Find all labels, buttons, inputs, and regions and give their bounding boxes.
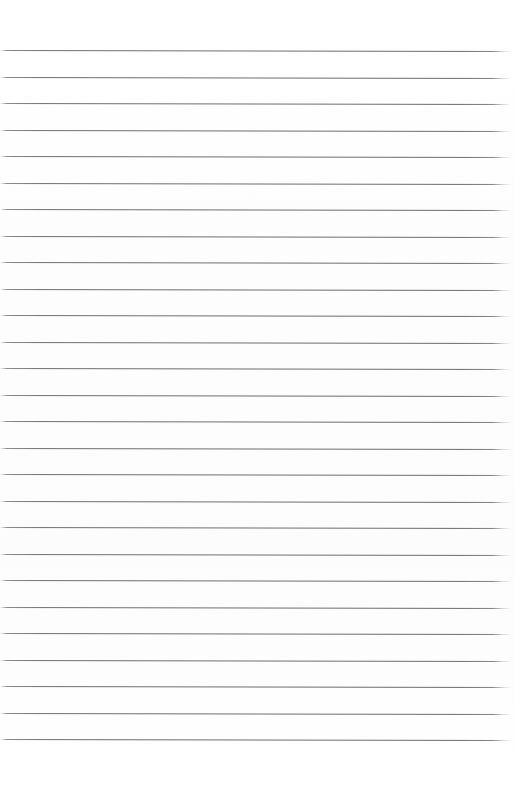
ruled-line	[0, 236, 515, 238]
ruled-line	[0, 421, 515, 423]
ruled-line	[0, 209, 515, 211]
ruled-line	[0, 130, 515, 132]
ruled-line	[0, 289, 515, 291]
scanned-page	[0, 0, 515, 801]
ruled-line	[0, 474, 515, 476]
ruled-lines-layer	[0, 0, 515, 801]
ruled-line	[0, 633, 515, 635]
ruled-line	[0, 448, 515, 450]
ruled-line	[0, 342, 515, 344]
ruled-line	[0, 262, 515, 264]
ruled-line	[0, 686, 515, 688]
ruled-line	[0, 156, 515, 158]
ruled-line	[0, 183, 515, 185]
ruled-line	[0, 77, 515, 79]
ruled-line	[0, 315, 515, 317]
ruled-line	[0, 395, 515, 397]
ruled-line	[0, 501, 515, 503]
ruled-line	[0, 50, 515, 52]
ruled-line	[0, 103, 515, 105]
ruled-line	[0, 554, 515, 556]
ruled-line	[0, 607, 515, 609]
ruled-line	[0, 527, 515, 529]
ruled-line	[0, 713, 515, 715]
ruled-line	[0, 580, 515, 582]
bottom-margin	[0, 739, 515, 801]
ruled-line	[0, 368, 515, 370]
ruled-line	[0, 660, 515, 662]
